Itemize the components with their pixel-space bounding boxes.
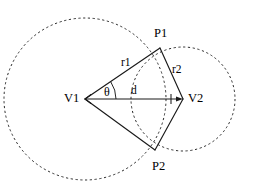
label-d: d xyxy=(131,85,137,97)
label-v1: V1 xyxy=(64,92,79,105)
label-p1: P1 xyxy=(154,27,167,40)
label-r2: r2 xyxy=(172,64,182,76)
label-theta: θ xyxy=(104,86,110,98)
label-p2: P2 xyxy=(152,160,165,173)
label-r1: r1 xyxy=(121,57,131,69)
angle-arc-theta xyxy=(111,82,116,99)
segment-p2-v2 xyxy=(155,99,183,150)
geometry-diagram: V1 V2 P1 P2 r1 r2 d θ xyxy=(0,0,264,188)
segment-v1-p2 xyxy=(85,99,155,150)
label-v2: V2 xyxy=(188,92,203,105)
